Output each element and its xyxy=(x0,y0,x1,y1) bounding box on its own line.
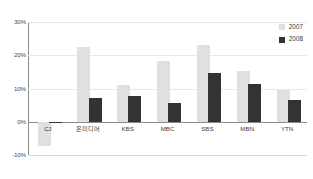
bar-2008-SBS xyxy=(208,73,221,122)
legend-label-2007: 2007 xyxy=(289,24,303,30)
bar-group: SBS xyxy=(187,22,227,156)
legend-label-2008: 2008 xyxy=(289,36,303,42)
bar-group: KBS xyxy=(108,22,148,156)
bar-group: 온미디어 xyxy=(68,22,108,156)
legend-swatch-2008-icon xyxy=(279,37,285,43)
bar-2008-KBS xyxy=(128,96,141,122)
x-axis-label: 온미디어 xyxy=(68,126,108,132)
bar-groups: CJ온미디어KBSMBCSBSMBNYTN xyxy=(28,22,307,156)
bar-group: CJ xyxy=(28,22,68,156)
bar-2008-CJ xyxy=(49,122,62,123)
y-tick-30: 30% xyxy=(0,19,26,25)
y-tick-10: 10% xyxy=(0,86,26,92)
chart-legend: 2007 2008 xyxy=(279,24,303,43)
bar-2008-MBN xyxy=(248,84,261,122)
y-tick-0: 0% xyxy=(0,119,26,125)
bar-2008-YTN xyxy=(288,100,301,122)
x-axis-label: MBC xyxy=(148,126,188,132)
bar-chart: 30% 20% 10% 0% -10% CJ온미디어KBSMBCSBSMBNYT… xyxy=(0,0,313,179)
bar-group: MBN xyxy=(227,22,267,156)
bar-group: MBC xyxy=(148,22,188,156)
x-axis-label: MBN xyxy=(227,126,267,132)
x-axis-label: KBS xyxy=(108,126,148,132)
plot-area: CJ온미디어KBSMBCSBSMBNYTN xyxy=(28,22,307,156)
legend-item-2007: 2007 xyxy=(279,24,303,30)
x-axis-label: YTN xyxy=(267,126,307,132)
legend-swatch-2007-icon xyxy=(279,24,285,30)
y-tick-20: 20% xyxy=(0,52,26,58)
legend-item-2008: 2008 xyxy=(279,36,303,42)
bar-2008-온미디어 xyxy=(89,98,102,122)
y-axis-ticks: 30% 20% 10% 0% -10% xyxy=(0,0,26,179)
x-axis-label: SBS xyxy=(187,126,227,132)
x-axis-label: CJ xyxy=(28,126,68,132)
bar-2008-MBC xyxy=(168,103,181,122)
y-tick-neg10: -10% xyxy=(0,152,26,158)
